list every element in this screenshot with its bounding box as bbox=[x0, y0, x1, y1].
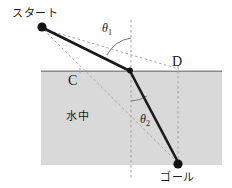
goal-point-dot bbox=[173, 159, 182, 168]
theta2-label: θ2 bbox=[140, 113, 150, 128]
incident-ray bbox=[43, 28, 130, 71]
refraction-diagram: スタート ゴール 水中 C D θ1 θ2 bbox=[0, 0, 232, 188]
theta1-arc bbox=[107, 38, 131, 55]
theta2-subscript: 2 bbox=[146, 119, 150, 128]
point-c-label: C bbox=[68, 74, 77, 88]
goal-label: ゴール bbox=[160, 172, 195, 183]
start-label: スタート bbox=[12, 8, 58, 19]
theta1-label: θ1 bbox=[102, 22, 112, 37]
diagram-canvas bbox=[0, 0, 232, 188]
theta1-subscript: 1 bbox=[108, 28, 112, 37]
start-point-dot bbox=[37, 22, 46, 31]
point-d-label: D bbox=[172, 55, 182, 69]
refraction-point-dot bbox=[127, 68, 133, 74]
water-label: 水中 bbox=[66, 111, 89, 122]
